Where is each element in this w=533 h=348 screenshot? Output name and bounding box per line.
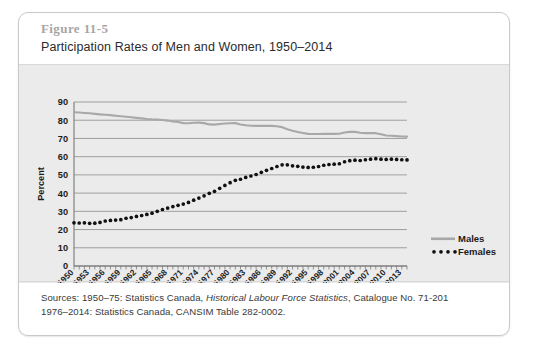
series-point-females — [223, 184, 227, 188]
legend-label-females: Females — [458, 246, 496, 257]
series-point-females — [103, 219, 107, 223]
series-point-females — [327, 163, 331, 167]
series-point-females — [265, 168, 269, 172]
series-point-females — [249, 174, 253, 178]
series-point-females — [202, 194, 206, 198]
source-line-2: 1976–2014: Statistics Canada, CANSIM Tab… — [41, 305, 509, 319]
series-point-females — [129, 216, 133, 220]
series-point-females — [181, 202, 185, 206]
source-line-1: Sources: 1950–75: Statistics Canada, His… — [41, 291, 509, 305]
series-point-females — [140, 214, 144, 218]
series-point-females — [77, 221, 81, 225]
series-point-females — [213, 189, 217, 193]
series-point-females — [270, 167, 274, 171]
series-point-females — [343, 160, 347, 164]
series-point-females — [384, 158, 388, 162]
series-point-females — [374, 157, 378, 161]
series-point-females — [358, 159, 362, 163]
series-point-females — [405, 158, 409, 162]
series-point-females — [119, 218, 123, 222]
legend-swatch-females — [453, 250, 457, 254]
series-point-females — [390, 157, 394, 161]
series-point-females — [296, 164, 300, 168]
series-point-females — [317, 165, 321, 169]
y-axis-tick-label: 20 — [58, 225, 68, 235]
legend-label-males: Males — [458, 233, 484, 244]
y-axis-title: Percent — [36, 167, 46, 201]
series-point-females — [93, 221, 97, 225]
series-point-females — [135, 215, 139, 219]
y-axis-tick-label: 70 — [58, 134, 68, 144]
series-point-females — [233, 179, 237, 183]
series-point-females — [244, 176, 248, 180]
series-point-females — [145, 213, 149, 217]
series-point-females — [161, 208, 165, 212]
series-point-females — [239, 177, 243, 181]
series-point-females — [150, 211, 154, 215]
series-point-females — [83, 221, 87, 225]
figure-source-note: Sources: 1950–75: Statistics Canada, His… — [19, 281, 509, 335]
series-point-females — [166, 206, 170, 210]
series-point-females — [109, 219, 113, 223]
legend-swatch-females — [446, 250, 450, 254]
source-line-1-suffix: , Catalogue No. 71-201 — [348, 292, 448, 303]
y-axis-tick-label: 30 — [58, 207, 68, 217]
chart-panel: 0102030405060708090195019531956195919621… — [19, 65, 509, 283]
series-point-females — [369, 157, 373, 161]
series-point-females — [353, 158, 357, 162]
y-axis-tick-label: 90 — [58, 97, 68, 107]
series-point-females — [400, 158, 404, 162]
participation-rates-chart: 0102030405060708090195019531956195919621… — [19, 65, 511, 283]
legend-swatch-females — [432, 250, 436, 254]
y-axis-tick-label: 60 — [58, 152, 68, 162]
y-axis-tick-label: 50 — [58, 170, 68, 180]
figure-header: Figure 11-5 Participation Rates of Men a… — [19, 13, 509, 65]
series-point-females — [306, 166, 310, 170]
y-axis-tick-label: 40 — [58, 189, 68, 199]
series-point-females — [364, 158, 368, 162]
series-point-females — [72, 221, 76, 225]
series-point-females — [379, 157, 383, 161]
series-point-females — [155, 209, 159, 213]
series-point-females — [98, 221, 102, 225]
series-point-females — [275, 165, 279, 169]
series-point-females — [88, 222, 92, 226]
figure-title: Participation Rates of Men and Women, 19… — [41, 38, 509, 57]
series-point-females — [197, 196, 201, 200]
series-point-females — [395, 158, 399, 162]
y-axis-tick-label: 10 — [58, 243, 68, 253]
series-point-females — [291, 164, 295, 168]
series-point-females — [322, 163, 326, 167]
series-point-females — [280, 163, 284, 167]
series-point-females — [259, 170, 263, 174]
figure-number: Figure 11-5 — [41, 21, 509, 37]
series-point-females — [207, 191, 211, 195]
y-axis-tick-label: 80 — [58, 116, 68, 126]
series-point-females — [332, 162, 336, 166]
series-point-females — [124, 216, 128, 220]
series-point-females — [338, 162, 342, 166]
series-point-females — [192, 198, 196, 202]
plot-background — [74, 102, 407, 266]
series-point-females — [285, 163, 289, 167]
series-point-females — [218, 187, 222, 191]
source-line-1-prefix: Sources: 1950–75: Statistics Canada, — [41, 292, 206, 303]
source-line-1-italic: Historical Labour Force Statistics — [206, 292, 348, 303]
series-point-females — [348, 159, 352, 163]
figure-card: Figure 11-5 Participation Rates of Men a… — [18, 12, 510, 336]
series-point-females — [114, 218, 118, 222]
series-point-females — [171, 205, 175, 209]
series-point-females — [176, 203, 180, 207]
series-point-females — [228, 181, 232, 185]
series-point-females — [311, 165, 315, 169]
series-point-females — [254, 173, 258, 177]
legend-swatch-females — [439, 250, 443, 254]
series-point-females — [187, 201, 191, 205]
series-point-females — [301, 165, 305, 169]
